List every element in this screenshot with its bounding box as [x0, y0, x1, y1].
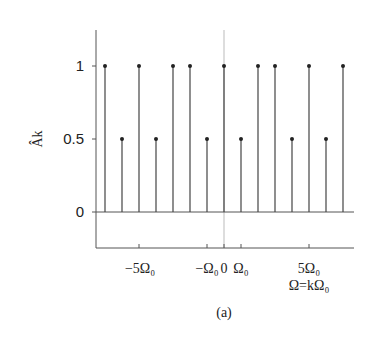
stem-marker: [324, 137, 328, 141]
ytick-0: 0: [76, 203, 84, 220]
stem-marker: [239, 137, 243, 141]
xtick-minus5: −5Ω₀: [125, 261, 155, 276]
stem-marker: [154, 137, 158, 141]
stem-marker: [120, 137, 124, 141]
stem-marker: [188, 64, 192, 68]
figure-caption: (a): [216, 305, 232, 321]
stem-chart: 1 0.5 0 Âk −5Ω₀ −Ω₀ 0 Ω₀ 5Ω₀ Ω=kΩ₀ (a): [0, 0, 373, 344]
stem-marker: [137, 64, 141, 68]
stem-marker: [205, 137, 209, 141]
plot-area: [92, 30, 354, 248]
xtick-minus1: −Ω₀: [195, 261, 218, 276]
stem-marker: [171, 64, 175, 68]
stem-marker: [341, 64, 345, 68]
xtick-5: 5Ω₀: [298, 261, 320, 276]
xtick-1: Ω₀: [233, 261, 248, 276]
stem-marker: [290, 137, 294, 141]
ytick-1: 1: [76, 57, 84, 74]
stem-marker: [222, 64, 226, 68]
stem-marker: [273, 64, 277, 68]
xtick-0: 0: [221, 261, 228, 276]
y-axis-label: Âk: [29, 130, 45, 147]
stem-marker: [103, 64, 107, 68]
ytick-0.5: 0.5: [63, 130, 84, 147]
stem-marker: [307, 64, 311, 68]
x-axis-label: Ω=kΩ₀: [289, 278, 330, 293]
stem-marker: [256, 64, 260, 68]
